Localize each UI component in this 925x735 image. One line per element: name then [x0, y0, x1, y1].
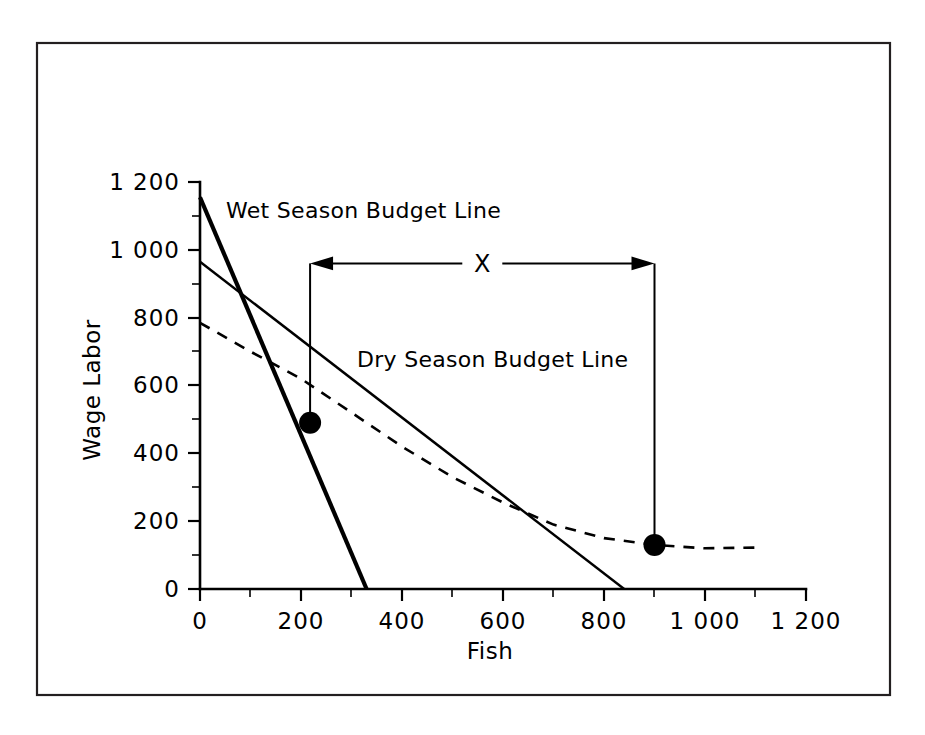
- y-tick-label-800: 800: [133, 305, 180, 331]
- y-tick-label-200: 200: [133, 508, 180, 534]
- x-tick-label-600: 600: [480, 608, 527, 634]
- x-tick-label-800: 800: [581, 608, 628, 634]
- y-tick-label-600: 600: [133, 372, 180, 398]
- y-tick-label-1200: 1 200: [109, 169, 180, 195]
- x-tick-label-0: 0: [192, 608, 208, 634]
- x-distance-label: X: [474, 250, 490, 278]
- x-tick-label-1200: 1 200: [771, 608, 842, 634]
- wet-season-label: Wet Season Budget Line: [226, 198, 501, 223]
- x-tick-label-400: 400: [379, 608, 426, 634]
- x-tick-label-200: 200: [278, 608, 325, 634]
- dry-season-label: Dry Season Budget Line: [357, 347, 628, 372]
- x-tick-label-1000: 1 000: [670, 608, 741, 634]
- y-tick-label-1000: 1 000: [109, 237, 180, 263]
- x-axis-title: Fish: [467, 638, 514, 664]
- wet-season-optimum-marker: [299, 412, 321, 434]
- y-tick-label-0: 0: [164, 576, 180, 602]
- y-axis-title: Wage Labor: [79, 319, 105, 461]
- y-tick-label-400: 400: [133, 440, 180, 466]
- chart-figure: 0 200 400 600 800 1 000 1 200 0 200 400 …: [0, 0, 925, 735]
- dry-season-optimum-marker: [644, 534, 666, 556]
- chart-canvas: 0 200 400 600 800 1 000 1 200 0 200 400 …: [0, 0, 925, 735]
